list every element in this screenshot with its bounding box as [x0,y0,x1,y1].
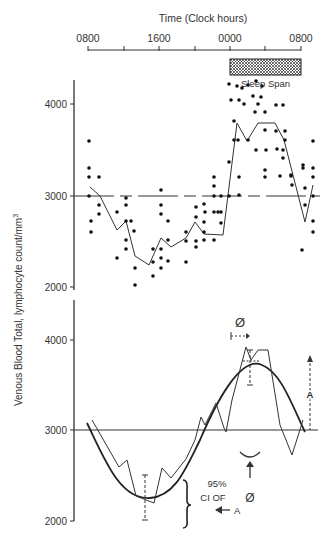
bottom-y-tick-3000: 3000 [45,425,68,436]
x-tick-0800a: 0800 [76,32,100,44]
sleep-span-bar [230,59,301,75]
acrophase-symbol: Ø [235,315,245,330]
bottom-panel: 4000 3000 2000 Ø A 95% CI OF Ø [45,300,318,528]
amplitude-brace [183,480,191,528]
x-tick-1600: 1600 [147,32,171,44]
scatter-points [87,79,315,287]
fitted-cosine [87,364,305,498]
top-y-tick-2000: 2000 [45,282,68,293]
x-tick-0800b: 0800 [289,32,313,44]
ci-phi: Ø [245,491,254,505]
ci-amplitude: A [234,505,241,516]
top-y-tick-3000: 3000 [45,191,68,202]
y-axis-title: Venous Blood Total, lymphocyte count/mm3 [12,214,24,406]
bottom-y-tick-4000: 4000 [45,335,68,346]
time-axis: 0800 1600 0000 0800 [76,32,313,51]
top-panel: 4000 3000 2000 [45,79,320,293]
mean-line [90,123,313,265]
ci-of: CI OF [200,492,226,503]
bottom-mean-line [92,347,303,503]
bottom-y-tick-2000: 2000 [45,516,68,527]
x-axis-title: Time (Clock hours) [159,12,247,24]
x-tick-0000: 0000 [218,32,242,44]
top-y-tick-4000: 4000 [45,99,68,110]
chronobiology-chart: Time (Clock hours) 0800 1600 0000 0800 S… [0,0,335,538]
ci-percent: 95% [207,478,227,489]
amplitude-label: A [307,389,314,400]
